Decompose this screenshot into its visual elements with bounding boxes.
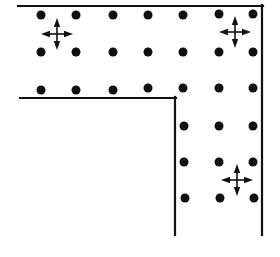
four-way-arrow-icon [41,18,73,50]
dot [180,158,189,167]
dot [72,48,81,57]
dot [249,10,258,19]
dot [179,84,188,93]
dot [37,86,46,95]
dot [215,122,224,131]
dot [109,11,118,20]
dot [109,86,118,95]
dot [215,158,224,167]
dot [215,48,224,57]
dot [215,84,224,93]
dot [250,194,259,203]
dot [179,11,188,20]
dot [179,48,188,57]
dot [109,48,118,57]
dot [72,86,81,95]
four-way-arrow-icon [219,16,251,48]
dot [144,84,153,93]
dot [249,158,258,167]
dot [181,194,190,203]
four-way-arrow-icon [221,164,253,196]
dot [249,122,258,131]
dot [37,11,46,20]
dot [216,194,225,203]
dot [249,84,258,93]
corridor-diagram [0,0,280,257]
dot [215,10,224,19]
dot [72,11,81,20]
dot [144,11,153,20]
dot [180,122,189,131]
walls [18,5,263,235]
dot [37,48,46,57]
dot [144,48,153,57]
dot-grid [37,10,259,203]
dot [249,48,258,57]
move-markers [41,16,253,196]
